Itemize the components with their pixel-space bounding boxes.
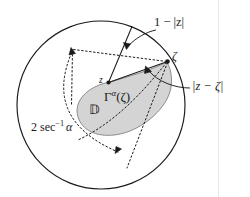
segment-one-minus-z <box>109 27 133 83</box>
angle-arc-arrow-top-icon <box>69 48 76 56</box>
label-point-zeta: ζ <box>172 50 177 62</box>
label-z-minus-zeta-text: |z − ζ| <box>192 79 223 93</box>
point-marker-z <box>106 80 110 84</box>
label-z-minus-zeta: |z − ζ| <box>192 80 223 93</box>
point-marker-zeta <box>165 59 170 64</box>
page-margin-rule <box>218 0 219 197</box>
label-point-z-text: z <box>99 75 103 85</box>
label-two-sec-lead: 2 sec <box>31 120 55 134</box>
label-two-sec-inverse-alpha: 2 sec−1α <box>31 120 72 133</box>
label-one-minus-z: 1 − |z| <box>154 16 184 29</box>
leader-one-minus-z-arrow-icon <box>124 43 131 50</box>
dotted-vertical-line <box>72 51 73 106</box>
label-point-z: z <box>99 76 103 86</box>
label-gamma-symbol: Γ <box>104 89 112 104</box>
label-one-minus-z-text: 1 − |z| <box>154 15 184 29</box>
label-two-sec-exponent: −1 <box>55 119 64 128</box>
label-unit-disk: 𝔻 <box>89 103 100 116</box>
angle-arc-arrow-bottom-icon <box>115 147 122 154</box>
label-unit-disk-text: 𝔻 <box>89 102 100 117</box>
label-point-zeta-text: ζ <box>172 49 177 63</box>
label-two-sec-tail: α <box>66 120 72 134</box>
label-gamma-region: Γα(ζ) <box>104 89 130 103</box>
figure-root: 1 − |z| |z − ζ| 2 sec−1α Γα(ζ) 𝔻 z ζ <box>0 0 250 197</box>
label-gamma-argument: (ζ) <box>116 89 130 104</box>
